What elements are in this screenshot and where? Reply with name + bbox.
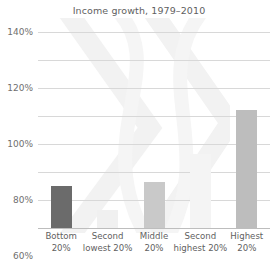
- bar-series: [38, 32, 270, 228]
- x-axis-label-line1: Highest: [216, 231, 278, 243]
- y-axis-tick-label: 100%: [7, 139, 33, 149]
- bar-bottom-20[interactable]: [51, 186, 72, 228]
- chart-container: Income growth, 1979–2010 0%20%40%60%80%1…: [0, 0, 278, 266]
- y-axis-tick-label: 120%: [7, 83, 33, 93]
- y-axis-tick-label: 140%: [7, 27, 33, 37]
- x-axis-label-line2: 20%: [216, 243, 278, 255]
- bar-middle-20[interactable]: [144, 182, 165, 228]
- x-axis-labels: Bottom20%Secondlowest 20%Middle20%Second…: [38, 231, 270, 265]
- bar-second-lowest-20[interactable]: [97, 210, 118, 228]
- y-axis-tick-label: 80%: [13, 195, 33, 205]
- chart-title: Income growth, 1979–2010: [0, 5, 278, 16]
- x-axis-label-5: Highest20%: [216, 231, 278, 254]
- bar-highest-20[interactable]: [236, 110, 257, 228]
- bar-second-highest-20[interactable]: [190, 154, 211, 228]
